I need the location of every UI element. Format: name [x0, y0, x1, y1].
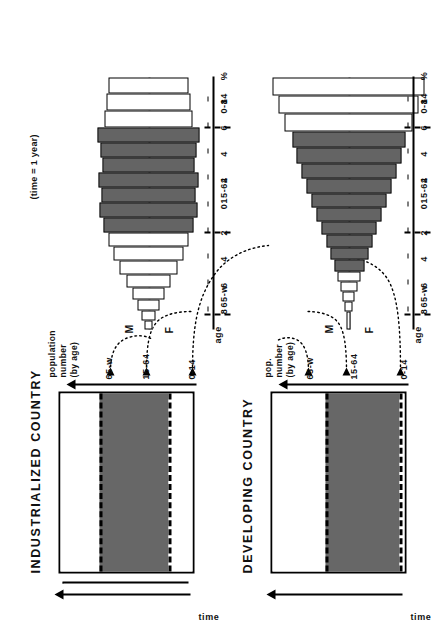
pct-tick-dev-1: [407, 122, 408, 127]
pct-ticklabel-ind-3: 2: [218, 177, 228, 182]
pyramid-cat-ind-65-w: 65-w: [218, 285, 228, 307]
timebar-segment-industrialized-15-64: [99, 393, 168, 571]
pct-tick-ind-3: [207, 174, 208, 179]
value-axis-arrow-developing: [278, 379, 287, 389]
pct-ticklabel-ind-0: 8: [218, 99, 228, 104]
pyramid-bar-ind-m-12: [126, 274, 170, 287]
pyramid-bar-ind-m-05: [98, 172, 198, 187]
timebar-divider-developing-upper: [399, 393, 402, 571]
pyramid-bar-ind-m-04: [102, 157, 194, 172]
pyramid-label-male-developing: M: [322, 324, 334, 333]
pyramid-bar-ind-m-08: [103, 217, 193, 232]
pyramid-bar-dev-m-11: [334, 259, 364, 271]
pct-ticklabel-ind-4: 0: [218, 204, 228, 209]
pct-tick-ind-5: [207, 227, 208, 232]
timebar-tick-industrialized-0-14: 0-14: [186, 359, 196, 379]
pct-ticklabel-dev-0: 8: [418, 99, 428, 104]
pct-tick-dev-8: [407, 306, 408, 311]
pyramid-bar-ind-m-06: [101, 187, 195, 202]
timebar-tick-industrialized-15-64: 15-64: [140, 353, 150, 379]
pyramid-bar-dev-m-14: [342, 291, 354, 301]
timebar-segment-developing-15-64: [325, 393, 399, 571]
value-axis-label-line1-developing: pop.: [262, 357, 272, 377]
pyramid-bar-dev-m-07: [316, 207, 381, 221]
timebar-developing: [270, 391, 406, 573]
panel-title-industrialized: INDUSTRIALIZED COUNTRY: [28, 369, 42, 573]
pct-ticklabel-dev-4: 0: [418, 204, 428, 209]
pct-tick-dev-6: [407, 253, 408, 258]
pct-tick-dev-4: [407, 201, 408, 206]
pyramid-bar-ind-m-03: [100, 142, 196, 157]
time-arrow-head-developing: [266, 589, 275, 599]
pct-ticklabel-dev-7: 6: [418, 282, 428, 287]
time-label-industrialized: time: [198, 611, 219, 621]
pyramid-bar-ind-m-09: [108, 232, 188, 246]
value-axis-label-line2-industrialized: number: [57, 343, 67, 377]
value-axis-industrialized: [74, 383, 196, 385]
pct-ticklabel-ind-5: 2: [218, 230, 228, 235]
value-axis-label-line1-industrialized: population: [46, 330, 56, 377]
pyramid-bar-dev-m-15: [344, 301, 352, 311]
timebar-segment-developing-0-14: [272, 393, 325, 571]
pct-ticklabel-ind-1: 6: [218, 125, 228, 130]
pct-ticklabel-ind-7: 6: [218, 282, 228, 287]
pct-tick-ind-7: [207, 279, 208, 284]
pct-tick-dev-7: [407, 279, 408, 284]
pyramid-bar-ind-m-02: [97, 127, 199, 142]
pyramid-bar-ind-m-15: [141, 310, 155, 320]
value-axis-label-line2-developing: number: [273, 343, 283, 377]
pyramid-bar-ind-m-youngest: [108, 77, 188, 93]
pct-axis-industrialized: [212, 76, 214, 329]
pyramid-bar-dev-m-04: [301, 163, 396, 178]
timebar-tick-developing-0-14: 0-14: [398, 359, 408, 379]
timebar-tick-industrialized-65-w: 65-w: [103, 357, 113, 379]
pct-axis-developing: [412, 76, 414, 329]
pyramid-bar-ind-m-00: [106, 93, 190, 110]
pyramid-label-male-industrialized: M: [122, 324, 134, 333]
timebar-divider-industrialized-upper: [168, 393, 171, 571]
pyramid-bar-dev-m-01: [284, 113, 412, 131]
pct-ticklabel-ind-8: 8: [218, 309, 228, 314]
pyramid-bar-ind-m-10: [113, 246, 183, 260]
pct-ticklabel-dev-1: 6: [418, 125, 428, 130]
time-axis-industrialized-origin: [62, 582, 63, 583]
pyramid-bar-dev-m-00: [278, 95, 418, 113]
pyramid-industrialized: M F age 65-w 15-64 0-14: [86, 29, 212, 329]
pct-unit-ind: %: [218, 72, 228, 80]
pyramid-bar-dev-m-09: [326, 234, 372, 247]
pyramid-label-female-developing: F: [362, 327, 374, 333]
timebar-tick-developing-15-64: 15-64: [348, 353, 358, 379]
pyramid-bar-dev-m-03: [296, 147, 401, 163]
pyramid-bar-dev-m-02: [292, 131, 405, 147]
pct-tick-dev-2: [407, 148, 408, 153]
pyramid-bar-dev-m-13: [340, 281, 357, 291]
pct-tick-ind-0: [207, 96, 208, 101]
pyramid-label-female-industrialized: F: [162, 327, 174, 333]
time-unit-note: (time = 1 year): [28, 134, 38, 199]
pyramid-bar-ind-m-14: [137, 299, 159, 310]
timebar-divider-industrialized-lower: [99, 393, 102, 571]
pyramid-bar-dev-m-05: [306, 178, 391, 193]
pyramid-bar-dev-m-youngest: [272, 77, 424, 95]
time-arrow-head-industrialized: [54, 589, 63, 599]
pct-ticklabel-dev-5: 2: [418, 230, 428, 235]
pct-tick-ind-4: [207, 201, 208, 206]
pct-tick-dev-3: [407, 174, 408, 179]
pct-ticklabel-dev-6: 4: [418, 256, 428, 261]
value-axis-developing: [286, 383, 408, 385]
pct-unit-dev: %: [418, 72, 428, 80]
pyramid-bar-ind-m-11: [119, 260, 177, 274]
pyramid-bar-dev-m-12: [337, 271, 360, 281]
pct-ticklabel-dev-2: 4: [418, 151, 428, 156]
pct-tick-ind-1: [207, 122, 208, 127]
value-axis-arrow-industrialized: [66, 379, 75, 389]
value-axis-label-line3-developing: (by age): [284, 341, 294, 377]
timebar-segment-industrialized-0-14: [60, 393, 99, 571]
time-label-developing: time: [410, 611, 431, 621]
pct-ticklabel-ind-6: 4: [218, 256, 228, 261]
panel-title-developing: DEVELOPING COUNTRY: [240, 397, 254, 573]
pct-ticklabel-ind-2: 4: [218, 151, 228, 156]
pct-tick-dev-5: [407, 227, 408, 232]
